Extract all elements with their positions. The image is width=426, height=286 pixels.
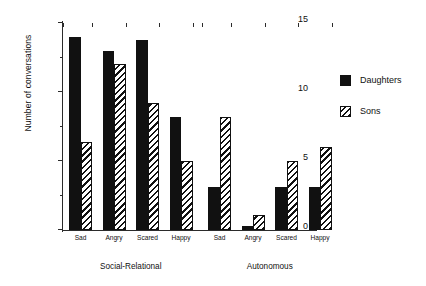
- bar-daughters-autonomous-happy: [309, 187, 321, 230]
- y-tick-major: [58, 229, 63, 230]
- bar-sons-social-relational-scared: [148, 103, 160, 230]
- x-tick: [159, 23, 160, 27]
- y-tick-major: [58, 160, 63, 161]
- x-tick: [332, 23, 333, 27]
- x-tick: [202, 23, 203, 27]
- x-tick: [126, 23, 127, 27]
- bar-daughters-social-relational-happy: [170, 117, 182, 230]
- x-axis-line: [62, 230, 317, 231]
- y-tick-label: 10: [298, 83, 308, 93]
- x-axis-label-sad: Sad: [75, 234, 87, 241]
- bar-sons-social-relational-happy: [181, 161, 193, 230]
- y-tick-minor: [60, 195, 63, 196]
- y-axis-title: Number of conversations: [23, 8, 33, 158]
- x-axis-label-angry: Angry: [244, 234, 261, 241]
- legend-swatch-icon: [340, 75, 351, 86]
- y-tick-minor: [60, 126, 63, 127]
- x-axis-label-angry: Angry: [105, 234, 122, 241]
- y-tick-minor: [60, 57, 63, 58]
- bar-chart: Number of conversations 051015 SadAngryS…: [0, 0, 426, 286]
- x-axis-label-scared: Scared: [137, 234, 158, 241]
- bar-sons-social-relational-sad: [81, 142, 93, 230]
- y-tick-label: 0: [303, 221, 308, 231]
- bar-daughters-autonomous-angry: [242, 226, 254, 230]
- x-tick: [231, 23, 232, 27]
- bar-sons-social-relational-angry: [114, 64, 126, 230]
- bar-daughters-social-relational-scared: [136, 40, 148, 230]
- chart-legend: DaughtersSons: [340, 74, 402, 136]
- legend-item-daughters[interactable]: Daughters: [340, 74, 402, 86]
- bar-daughters-autonomous-sad: [208, 187, 220, 230]
- x-axis-label-happy: Happy: [171, 234, 190, 241]
- x-tick: [63, 23, 64, 27]
- group-label-autonomous: Autonomous: [247, 262, 293, 271]
- group-label-social-relational: Social-Relational: [100, 262, 161, 271]
- x-axis-label-happy: Happy: [310, 234, 329, 241]
- legend-swatch-icon: [340, 106, 351, 117]
- x-axis-label-scared: Scared: [276, 234, 297, 241]
- legend-label: Daughters: [360, 75, 402, 85]
- bar-daughters-social-relational-sad: [69, 37, 81, 230]
- bar-sons-autonomous-angry: [253, 215, 265, 230]
- y-tick-major: [58, 91, 63, 92]
- bar-daughters-social-relational-angry: [103, 51, 115, 230]
- plot-area: 051015: [63, 23, 316, 230]
- x-tick: [298, 23, 299, 27]
- x-tick: [92, 23, 93, 27]
- x-tick: [265, 23, 266, 27]
- bar-sons-autonomous-sad: [220, 117, 232, 230]
- x-tick: [193, 23, 194, 27]
- legend-label: Sons: [360, 106, 381, 116]
- bar-sons-autonomous-scared: [287, 161, 299, 230]
- x-axis-label-sad: Sad: [214, 234, 226, 241]
- y-tick-label: 15: [298, 14, 308, 24]
- bar-sons-autonomous-happy: [320, 147, 332, 230]
- y-tick-label: 5: [303, 152, 308, 162]
- legend-item-sons[interactable]: Sons: [340, 105, 402, 117]
- bar-daughters-autonomous-scared: [275, 187, 287, 230]
